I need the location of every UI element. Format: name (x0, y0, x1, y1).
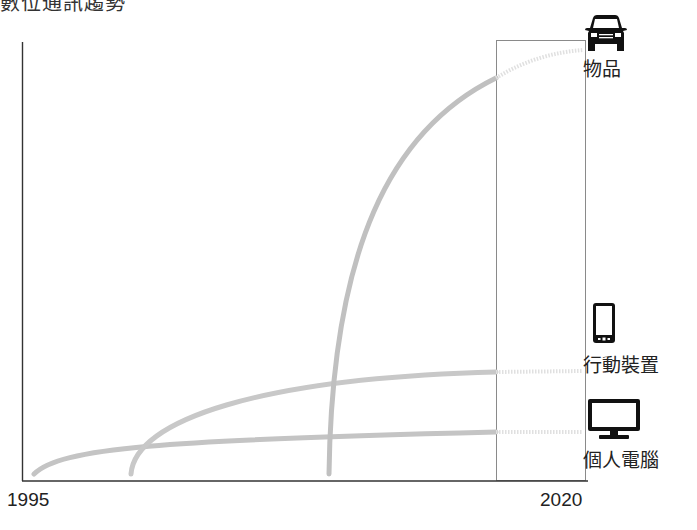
legend-label-mobile: 行動裝置 (583, 350, 693, 377)
series-mobile-forecast (496, 371, 583, 372)
series-things-forecast (496, 50, 583, 78)
desktop-monitor-icon (585, 397, 645, 441)
legend-item-mobile: 行動裝置 (583, 302, 693, 377)
series-pc-line (34, 432, 496, 474)
legend-item-pc: 個人電腦 (583, 397, 693, 472)
series-things-line (329, 78, 496, 474)
legend-label-things: 物品 (583, 54, 693, 81)
smartphone-icon (587, 302, 633, 344)
series-mobile-line (131, 372, 496, 474)
forecast-region-box (497, 41, 586, 481)
legend-label-pc: 個人電腦 (583, 445, 693, 472)
legend-item-things: 物品 (583, 14, 693, 81)
car-icon (583, 14, 629, 52)
x-tick-end: 2020 (540, 489, 582, 511)
x-tick-start: 1995 (7, 489, 49, 511)
